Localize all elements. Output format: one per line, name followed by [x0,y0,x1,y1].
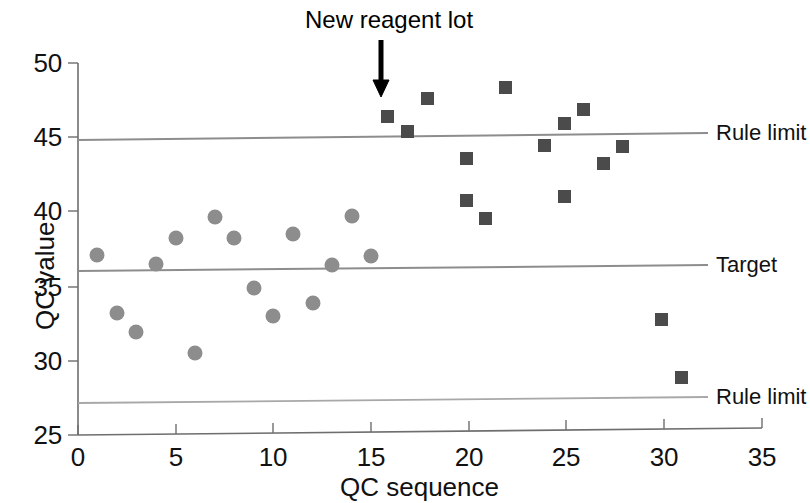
data-point-square [460,152,473,165]
x-tick-label: 20 [447,442,491,473]
x-axis-line [78,428,762,435]
reference-label-target: Target [716,252,777,278]
data-point-circle [149,257,164,272]
data-point-circle [169,231,184,246]
reference-line-target [78,265,708,271]
reference-line-lower-rule-limit [78,397,708,403]
x-tick-label: 15 [349,442,393,473]
y-axis-title: QC value [30,222,61,330]
data-point-circle [110,306,125,321]
data-point-square [401,125,414,138]
data-point-square [597,157,610,170]
y-tick-label: 25 [12,420,62,451]
data-point-square [421,92,434,105]
data-point-square [558,117,571,130]
x-tick-label: 25 [544,442,588,473]
data-point-square [577,103,590,116]
data-point-circle [325,258,340,273]
data-point-square [616,140,629,153]
data-point-circle [286,227,301,242]
y-tick-label: 50 [12,48,62,79]
data-point-square [675,371,688,384]
y-tick-label: 45 [12,122,62,153]
x-tick-label: 30 [642,442,686,473]
data-point-circle [364,249,379,264]
data-point-circle [266,309,281,324]
x-tick-label: 5 [161,442,191,473]
data-point-circle [188,346,203,361]
data-point-circle [90,248,105,263]
x-tick-label: 35 [740,442,784,473]
data-point-circle [345,209,360,224]
x-tick-label: 0 [63,442,93,473]
x-axis-title: QC sequence [340,472,499,503]
data-point-square [538,139,551,152]
data-point-circle [306,296,321,311]
y-tick-label: 30 [12,346,62,377]
data-point-circle [247,281,262,296]
reference-line-upper-rule-limit [78,133,708,140]
data-point-square [558,190,571,203]
data-point-circle [129,325,144,340]
x-tick-label: 10 [251,442,295,473]
annotation-new-reagent-lot: New reagent lot [305,6,473,34]
data-point-square [381,110,394,123]
data-point-circle [227,231,242,246]
data-point-square [479,212,492,225]
data-point-square [499,81,512,94]
reference-label-upper-rule-limit: Rule limit [716,120,806,146]
data-point-square [460,194,473,207]
data-point-circle [208,210,223,225]
data-point-square [655,313,668,326]
reference-label-lower-rule-limit: Rule limit [716,384,806,410]
new-reagent-lot-arrow-icon [373,40,389,97]
